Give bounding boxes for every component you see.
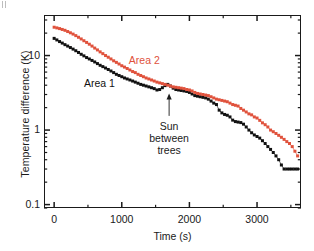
y-tick-label: 0.1	[25, 198, 40, 210]
x-tick-label: 1000	[102, 213, 142, 225]
annotation-line-1: Sun	[139, 120, 199, 132]
series-label-area1: Area 1	[84, 77, 115, 89]
y-tick-label: 10	[28, 49, 40, 61]
series-label-area2: Area 2	[129, 54, 160, 66]
y-tick-label: 1	[34, 123, 40, 135]
annotation-line-3: trees	[139, 144, 199, 156]
x-tick-label: 3000	[237, 213, 277, 225]
figure-container: Temperature difference (K) Time (s) Area…	[0, 0, 314, 251]
annotation-line-2: between	[139, 132, 199, 144]
annotation-sun-between-trees: Sun between trees	[139, 120, 199, 156]
x-tick-label: 0	[34, 213, 74, 225]
x-tick-label: 2000	[169, 213, 209, 225]
